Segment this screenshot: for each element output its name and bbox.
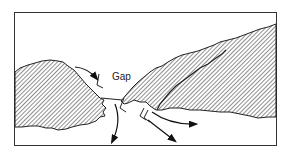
gap-wind-diagram <box>0 0 290 153</box>
gap-label: Gap <box>112 71 131 82</box>
